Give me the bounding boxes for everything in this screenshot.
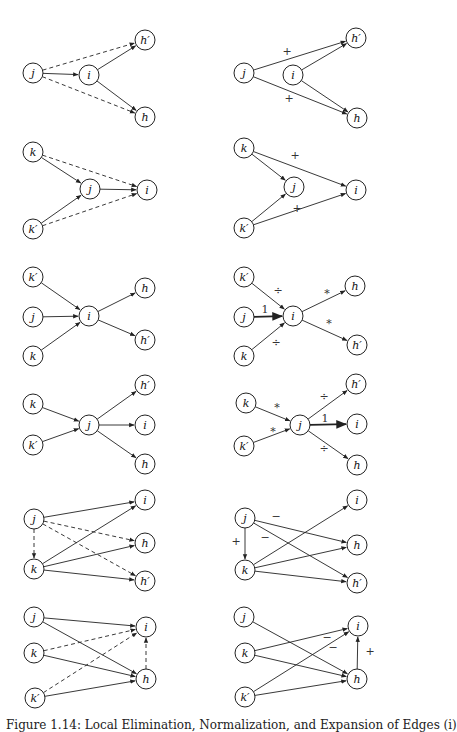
node-label: h [351, 280, 358, 293]
node-hp: h′ [346, 28, 366, 48]
node-k: k [23, 142, 43, 162]
node-h: h [136, 669, 156, 689]
node-label: i [291, 310, 295, 323]
node-label: k [30, 398, 37, 411]
edge-label: ÷ [319, 390, 328, 403]
edge-i-to-h [301, 81, 348, 112]
edge-j-to-i [44, 618, 135, 626]
edge-label: + [284, 92, 293, 105]
edge-i-to-hp [302, 320, 347, 340]
node-j: j [23, 63, 43, 83]
edge-k-to-j [42, 408, 78, 422]
node-label: k′ [240, 691, 250, 704]
node-label: h′ [352, 339, 362, 352]
node-h: h [135, 533, 155, 553]
panel-row3-left: k′jkihh′ [23, 267, 155, 366]
edge-k-to-hp [255, 571, 346, 582]
node-label: k′ [239, 440, 249, 453]
edge-j-to-i [100, 189, 136, 190]
node-kp: k′ [23, 219, 43, 239]
edge-k-to-i [42, 506, 135, 564]
edge-i-to-hp [97, 46, 135, 70]
edge-j-to-h [97, 431, 136, 458]
panel-row4-left: kk′jh′ih [23, 375, 155, 474]
node-label: h [353, 673, 360, 686]
node-label: k [31, 563, 38, 576]
edge-j-to-i [43, 316, 78, 317]
node-label: k′ [239, 222, 249, 235]
node-j: j [290, 415, 310, 435]
node-label: k [31, 647, 38, 660]
node-i: i [348, 616, 368, 636]
panel-row1-right: ++jih′h [234, 28, 367, 128]
node-label: k [242, 564, 249, 577]
edge-label: − [328, 641, 337, 654]
edge-kp-to-j [42, 429, 78, 442]
edge-kp-to-i [41, 283, 80, 310]
edge-kp-to-j [252, 194, 286, 222]
node-j: j [24, 607, 44, 627]
edge-k-to-i [41, 322, 80, 350]
node-h: h [347, 455, 367, 475]
edge-kp-to-j [41, 195, 81, 223]
node-i: i [79, 306, 99, 326]
edge-label: − [260, 531, 269, 544]
node-i: i [346, 180, 366, 200]
node-h: h [135, 454, 155, 474]
node-label: h′ [352, 577, 362, 590]
edge-label: + [292, 202, 301, 215]
node-j: j [234, 307, 254, 327]
edge-j-to-h [44, 521, 134, 541]
node-label: i [144, 621, 148, 634]
node-label: h [353, 459, 360, 472]
edge-label: + [282, 45, 291, 58]
node-i: i [136, 617, 156, 637]
node-h: h [135, 107, 155, 127]
edge-label: 1 [322, 412, 329, 425]
node-hp: h′ [135, 30, 155, 50]
node-j: j [79, 415, 99, 435]
node-hp: h′ [347, 335, 367, 355]
edge-label: + [365, 645, 374, 658]
node-label: h [353, 112, 360, 125]
node-label: h′ [140, 34, 150, 47]
node-kp: k′ [25, 688, 45, 708]
node-label: k′ [28, 223, 38, 236]
node-label: k′ [28, 271, 38, 284]
diagram-panels: jih′h++jih′hkjik′++kjik′k′jkihh′÷1÷**k′j… [23, 28, 375, 708]
edge-label: * [274, 401, 280, 414]
edge-label: * [324, 287, 330, 300]
node-i: i [347, 490, 367, 510]
node-h: h [347, 535, 367, 555]
node-label: i [291, 69, 295, 82]
node-label: k [242, 647, 249, 660]
edge-kp-to-i [43, 633, 136, 693]
edge-j-to-i [43, 73, 78, 74]
node-label: k [30, 350, 37, 363]
node-label: i [354, 184, 358, 197]
edge-label: ÷ [319, 442, 328, 455]
node-label: h′ [140, 334, 150, 347]
node-label: i [355, 494, 359, 507]
node-label: k [241, 350, 248, 363]
node-kp: k′ [23, 267, 43, 287]
node-label: i [87, 310, 91, 323]
node-k: k [23, 394, 43, 414]
node-label: k [241, 142, 248, 155]
node-label: h′ [351, 378, 361, 391]
node-label: i [143, 494, 147, 507]
node-kp: k′ [234, 267, 254, 287]
panel-row2-left: kjik′ [23, 142, 157, 239]
node-j: j [24, 509, 44, 529]
node-label: h [142, 673, 149, 686]
node-label: h′ [140, 379, 150, 392]
node-j: j [235, 508, 255, 528]
node-hp: h′ [135, 571, 155, 591]
node-label: i [356, 620, 360, 633]
node-label: k [243, 397, 250, 410]
node-k: k [235, 560, 255, 580]
edge-label: * [326, 317, 332, 330]
node-i: i [283, 306, 303, 326]
edge-label: ÷ [273, 284, 282, 297]
